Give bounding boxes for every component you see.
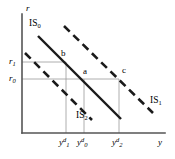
point-label-c: c: [122, 66, 126, 75]
is0-curve: [38, 36, 121, 119]
x-tick-label-yd0: yd0: [77, 138, 88, 147]
x-tick-yd1-sub: 1: [66, 141, 69, 148]
curve-label-is0: IS0: [29, 19, 41, 29]
y-tick-r1-sub: 1: [13, 60, 16, 67]
y-tick-r1-base: r: [9, 56, 13, 66]
x-tick-label-yd1: yd1: [59, 138, 70, 147]
y-tick-label-r1: r1: [9, 57, 16, 66]
y-axis-title: r: [26, 4, 30, 13]
guide-lines: [22, 62, 119, 133]
x-tick-label-yd2: yd2: [112, 138, 123, 147]
x-tick-yd0-sub: 0: [84, 141, 87, 148]
is2-label-sub: 2: [84, 114, 87, 121]
is-curve-diagram: r y r1 r0 yd1 yd0 yd2 IS0 IS1 IS2 b a c: [0, 0, 175, 159]
curve-label-is1: IS1: [150, 96, 162, 106]
is1-label-sub: 1: [158, 99, 161, 106]
y-tick-r0-sub: 0: [13, 77, 16, 84]
is1-curve: [64, 26, 153, 113]
x-tick-yd2-sub: 2: [119, 141, 122, 148]
point-label-b: b: [61, 49, 66, 58]
point-label-a: a: [83, 67, 87, 76]
x-axis-title: y: [158, 138, 162, 147]
curve-label-is2: IS2: [76, 111, 88, 121]
axes: [22, 14, 165, 133]
y-tick-r0-base: r: [9, 73, 13, 83]
y-tick-label-r0: r0: [9, 74, 16, 83]
is0-label-sub: 0: [37, 22, 40, 29]
chart-canvas: [0, 0, 175, 159]
